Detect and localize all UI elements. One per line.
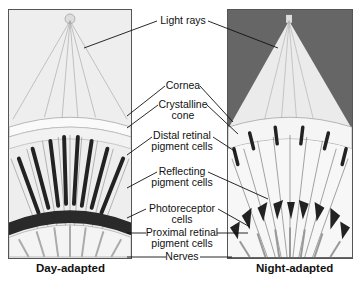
label-reflecting-pigment-cells: Reflecting pigment cells bbox=[150, 166, 214, 188]
label-crystalline-line2: cone bbox=[155, 110, 211, 121]
day-adapted-eye-illustration bbox=[8, 9, 132, 259]
caption-day-adapted: Day-adapted bbox=[36, 262, 105, 274]
label-distal-line2: pigment cells bbox=[148, 141, 216, 152]
night-adapted-drawing bbox=[228, 10, 352, 258]
label-photoreceptor-line2: cells bbox=[145, 214, 219, 225]
caption-night-adapted: Night-adapted bbox=[256, 262, 333, 274]
label-crystalline-cone: Crystalline cone bbox=[155, 99, 211, 121]
label-reflecting-line2: pigment cells bbox=[150, 177, 214, 188]
label-light-rays: Light rays bbox=[155, 15, 211, 26]
day-adapted-drawing bbox=[9, 10, 131, 258]
night-adapted-eye-illustration bbox=[227, 9, 353, 259]
label-photoreceptor-cells: Photoreceptor cells bbox=[145, 203, 219, 225]
label-cornea: Cornea bbox=[163, 80, 203, 91]
label-proximal-retinal-pigment-cells: Proximal retinal pigment cells bbox=[145, 227, 219, 249]
label-proximal-line2: pigment cells bbox=[145, 238, 219, 249]
label-nerves: Nerves bbox=[163, 251, 201, 262]
label-distal-retinal-pigment-cells: Distal retinal pigment cells bbox=[148, 130, 216, 152]
